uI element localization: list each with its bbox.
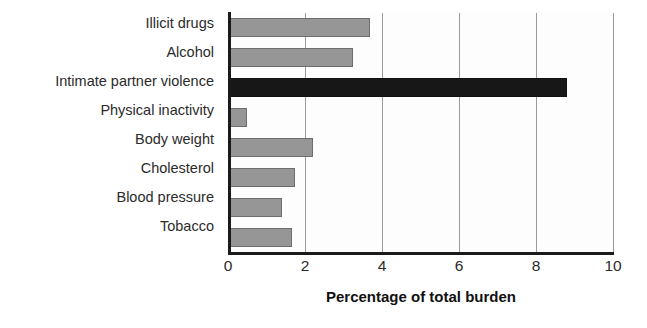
x-tick-label-0: 0 (224, 258, 233, 274)
x-tick-label-2: 2 (301, 258, 310, 274)
x-tick-label-6: 6 (455, 258, 464, 274)
category-label-illicit-drugs: Illicit drugs (0, 16, 214, 31)
bar-tobacco (228, 228, 292, 247)
category-label-body-weight: Body weight (0, 132, 214, 147)
bar-body-weight (228, 138, 313, 157)
x-tick-label-8: 8 (532, 258, 541, 274)
gridline-4 (382, 13, 383, 253)
bar-illicit-drugs (228, 18, 370, 37)
y-axis-line (228, 12, 231, 255)
category-axis-labels: Illicit drugs Alcohol Intimate partner v… (0, 13, 222, 253)
gridline-6 (459, 13, 460, 253)
gridline-8 (536, 13, 537, 253)
x-axis-title: Percentage of total burden (228, 288, 614, 305)
category-label-blood-pressure: Blood pressure (0, 190, 214, 205)
plot-area (228, 13, 613, 253)
horizontal-bar-chart: Illicit drugs Alcohol Intimate partner v… (0, 0, 647, 328)
x-tick-label-4: 4 (378, 258, 387, 274)
bar-intimate-partner-violence (228, 78, 567, 97)
category-label-tobacco: Tobacco (0, 219, 214, 234)
bar-cholesterol (228, 168, 295, 187)
category-label-intimate-partner-violence: Intimate partner violence (0, 74, 214, 89)
category-label-cholesterol: Cholesterol (0, 161, 214, 176)
x-tick-label-10: 10 (604, 258, 621, 274)
category-label-alcohol: Alcohol (0, 45, 214, 60)
gridline-10 (613, 13, 614, 253)
category-label-physical-inactivity: Physical inactivity (0, 103, 214, 118)
bar-blood-pressure (228, 198, 282, 217)
bar-alcohol (228, 48, 353, 67)
x-axis-line (228, 252, 614, 255)
